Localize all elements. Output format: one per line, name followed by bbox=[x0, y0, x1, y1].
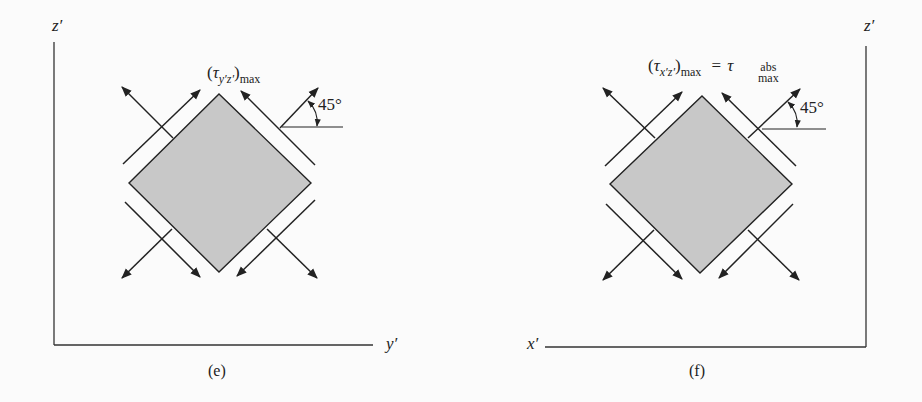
paren-close: ) bbox=[234, 63, 240, 82]
panel-e-vertical-axis-label: z′ bbox=[52, 16, 62, 36]
panel-e-stress-label: (τy′z′)max bbox=[207, 63, 260, 83]
diagram-canvas bbox=[0, 0, 922, 402]
panel-f-stress-label: (τx′z′)max =τ bbox=[648, 56, 733, 76]
tau-subscript: y′z′ bbox=[219, 72, 234, 86]
tau-symbol: τ bbox=[654, 56, 660, 75]
max-text: max bbox=[758, 73, 779, 84]
max-subscript: max bbox=[681, 65, 702, 79]
tau-abs-symbol: τ bbox=[727, 56, 733, 75]
panel-e-caption: (e) bbox=[208, 362, 226, 380]
panel-f-vertical-axis-label: z′ bbox=[864, 16, 874, 36]
tau-subscript: x′z′ bbox=[660, 65, 675, 79]
max-subscript: max bbox=[240, 72, 261, 86]
panel-f-angle-label: 45° bbox=[800, 98, 824, 118]
panel-e-horizontal-axis-label: y′ bbox=[386, 334, 397, 354]
tau-symbol: τ bbox=[213, 63, 219, 82]
panel-f-horizontal-axis-label: x′ bbox=[527, 334, 538, 354]
paren-close: ) bbox=[675, 56, 681, 75]
equals-sign: = bbox=[712, 56, 722, 75]
panel-f-abs-max-subscript: abs max bbox=[758, 62, 779, 84]
panel-e-angle-label: 45° bbox=[318, 95, 342, 115]
panel-f-caption: (f) bbox=[689, 362, 705, 380]
